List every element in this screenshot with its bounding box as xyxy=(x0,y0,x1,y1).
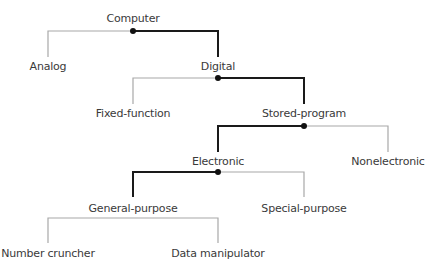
edge-general-purpose-children xyxy=(48,218,218,243)
branch-general-purpose xyxy=(48,218,218,243)
junction-dot-electronic xyxy=(215,169,221,175)
node-electronic: Electronic xyxy=(192,155,244,168)
edge-digital-fixed-function xyxy=(133,78,218,104)
node-nonelectronic: Nonelectronic xyxy=(351,155,424,168)
node-stored-program: Stored-program xyxy=(262,107,346,120)
junction-dot-stored-program xyxy=(301,123,307,129)
node-fixed-function: Fixed-function xyxy=(96,107,171,120)
classification-tree xyxy=(0,0,433,270)
node-analog: Analog xyxy=(30,60,67,73)
edge-stored-program-nonelectronic xyxy=(304,126,388,152)
node-number-cruncher: Number cruncher xyxy=(1,247,95,260)
junction-dot-computer xyxy=(130,28,136,34)
branch-electronic xyxy=(133,169,304,197)
node-computer: Computer xyxy=(106,12,159,25)
edge-digital-stored-program xyxy=(218,78,304,104)
branch-stored-program xyxy=(218,123,388,152)
edge-stored-program-electronic xyxy=(218,126,304,152)
edge-electronic-general-purpose xyxy=(133,172,218,197)
node-general-purpose: General-purpose xyxy=(88,202,177,215)
edge-electronic-special-purpose xyxy=(218,172,304,197)
edge-computer-digital xyxy=(133,31,218,57)
node-special-purpose: Special-purpose xyxy=(261,202,346,215)
branch-computer xyxy=(48,28,218,57)
junction-dot-digital xyxy=(215,75,221,81)
node-data-manipulator: Data manipulator xyxy=(171,247,264,260)
branch-digital xyxy=(133,75,304,104)
edge-computer-analog xyxy=(48,31,133,57)
node-digital: Digital xyxy=(201,60,235,73)
